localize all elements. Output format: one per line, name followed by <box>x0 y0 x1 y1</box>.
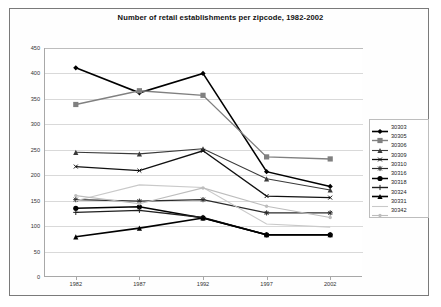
data-point-square <box>200 93 205 98</box>
series-line <box>76 218 330 237</box>
data-point-dot <box>265 205 268 208</box>
legend-label: 30309 <box>391 152 407 158</box>
series-layer <box>44 48 362 277</box>
data-point-diamond <box>73 65 78 70</box>
data-point-star <box>264 210 269 215</box>
legend-swatch-icon <box>371 187 389 196</box>
data-point-square <box>73 102 78 107</box>
y-axis-tick-label: 400 <box>2 70 40 76</box>
data-point-dot <box>138 202 141 205</box>
legend-label: 30306 <box>391 142 407 148</box>
data-point-square <box>137 88 142 93</box>
x-axis-tick-label: 1992 <box>173 281 233 287</box>
legend-item-30331[interactable]: 30331 <box>371 196 426 205</box>
legend-swatch-icon <box>371 141 389 150</box>
data-point-square <box>264 154 269 159</box>
legend-label: 30305 <box>391 133 407 139</box>
legend-swatch-icon <box>371 206 389 215</box>
x-axis-tick-label: 1987 <box>109 281 169 287</box>
legend-swatch-icon <box>371 197 389 206</box>
y-axis-tick-label: 200 <box>2 172 40 178</box>
legend-swatch-icon <box>371 122 389 131</box>
page-margin <box>0 300 441 307</box>
legend-label: 30324 <box>391 189 407 195</box>
x-axis-tick-mark <box>76 277 77 280</box>
y-axis-tick-label: 250 <box>2 147 40 153</box>
series-30318 <box>73 208 333 238</box>
series-line <box>76 185 330 227</box>
legend-swatch-icon <box>371 178 389 187</box>
legend-item-30324[interactable]: 30324 <box>371 187 426 196</box>
legend-item-30310[interactable]: 30310 <box>371 159 426 168</box>
legend-swatch-icon <box>371 150 389 159</box>
series-30331 <box>76 185 330 227</box>
x-axis-tick-label: 1997 <box>237 281 297 287</box>
y-axis-tick-label: 50 <box>2 249 40 255</box>
x-axis-tick-mark <box>203 277 204 280</box>
data-point-dot <box>74 194 77 197</box>
legend-swatch-icon <box>371 159 389 168</box>
x-axis-tick-mark <box>139 277 140 280</box>
y-axis-tick-label: 350 <box>2 96 40 102</box>
x-axis-tick-label: 2002 <box>300 281 360 287</box>
y-axis-tick-label: 300 <box>2 121 40 127</box>
legend-label: 30318 <box>391 179 407 185</box>
legend-label: 30316 <box>391 170 407 176</box>
data-point-star <box>73 197 78 202</box>
legend-item-30305[interactable]: 30305 <box>371 131 426 140</box>
legend-label: 30331 <box>391 198 407 204</box>
legend-label: 30342 <box>391 207 407 213</box>
data-point-plus <box>73 210 78 215</box>
legend-label: 30310 <box>391 161 407 167</box>
series-30324 <box>73 215 333 239</box>
data-point-dot <box>378 214 381 217</box>
data-point-star <box>200 197 205 202</box>
y-axis-tick-label: 100 <box>2 223 40 229</box>
legend-item-30303[interactable]: 30303 <box>371 122 426 131</box>
x-axis-tick-mark <box>330 277 331 280</box>
legend-swatch-icon <box>371 131 389 140</box>
legend-item-30309[interactable]: 30309 <box>371 150 426 159</box>
legend-item-30342[interactable]: 30342 <box>371 206 426 215</box>
x-axis-tick-mark <box>267 277 268 280</box>
data-point-star <box>328 210 333 215</box>
series-30303 <box>73 65 333 189</box>
data-point-dot <box>201 186 204 189</box>
data-point-square <box>328 156 333 161</box>
legend-label: 30303 <box>391 124 407 130</box>
y-axis-tick-label: 450 <box>2 45 40 51</box>
chart-title: Number of retail establishments per zipc… <box>0 13 441 22</box>
chart-page: Number of retail establishments per zipc… <box>0 0 441 307</box>
legend-swatch-icon <box>371 169 389 178</box>
legend-item-30316[interactable]: 30316 <box>371 168 426 177</box>
x-axis-tick-label: 1982 <box>46 281 106 287</box>
legend-item-30306[interactable]: 30306 <box>371 141 426 150</box>
y-axis-tick-label: 0 <box>2 274 40 280</box>
y-axis-tick-label: 150 <box>2 198 40 204</box>
chart-legend: 3030330305303063030930310303163031830324… <box>369 119 429 218</box>
data-point-dot <box>329 216 332 219</box>
legend-item-30318[interactable]: 30318 <box>371 178 426 187</box>
